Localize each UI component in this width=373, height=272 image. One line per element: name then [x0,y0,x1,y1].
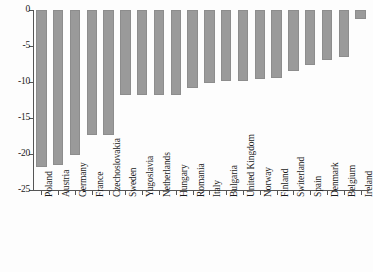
x-axis-tick [243,191,244,195]
x-axis-tick-label: Ireland [365,171,373,197]
bar [120,10,130,95]
x-axis-tick [260,191,261,195]
bar [171,10,181,95]
x-axis-tick-label: Bulgaria [230,165,240,197]
x-axis-tick [327,191,328,195]
x-axis-tick [361,191,362,195]
bar [87,10,97,135]
x-axis-tick [310,191,311,195]
bar [137,10,147,95]
x-axis-tick-label: France [96,172,106,197]
x-axis-tick [41,191,42,195]
x-axis-tick [193,191,194,195]
x-axis-tick [209,191,210,195]
bar [271,10,281,78]
x-axis-tick-label: Netherlands [163,152,173,197]
bar [204,10,214,83]
bar [154,10,164,95]
x-axis-tick-label: Germany [79,162,89,197]
bar [255,10,265,79]
bar [305,10,315,65]
x-axis-tick-label: Yugoslavia [146,156,156,197]
x-axis-tick [58,191,59,195]
x-axis-tick-label: United Kingdom [247,134,257,197]
bar [355,10,365,19]
x-axis-tick [142,191,143,195]
chart-screenshot: 0-5-10-15-20-25 PolandAustriaGermanyFran… [0,0,373,272]
x-axis-tick [277,191,278,195]
y-axis-tick-label: -5 [2,41,30,51]
y-axis-tick-label: -20 [2,149,30,159]
x-axis-tick [109,191,110,195]
x-axis-tick [293,191,294,195]
y-axis-tick-label: -15 [2,113,30,123]
bar [322,10,332,60]
bar [221,10,231,81]
x-axis-tick-label: Poland [45,171,55,197]
y-axis-tick-label: -10 [2,77,30,87]
y-axis-tick-label: 0 [2,5,30,15]
bar [288,10,298,71]
x-axis-tick-label: Sweden [129,168,139,197]
bar [339,10,349,57]
x-axis-tick-label: Austria [62,170,72,197]
bar [103,10,113,135]
x-axis-tick-label: Switerland [297,157,307,197]
x-axis-tick-label: Czechoslovakia [113,138,123,197]
bar [238,10,248,81]
x-axis-tick-label: Denmark [331,162,341,197]
x-axis-tick-label: Finland [281,169,291,197]
bar [70,10,80,155]
x-axis-tick [344,191,345,195]
x-axis-tick [226,191,227,195]
x-axis-tick-label: Italy [213,180,223,197]
x-axis-tick-label: Hungary [180,164,190,197]
x-axis-tick-label: Romania [197,163,207,197]
x-axis-tick [159,191,160,195]
x-axis-tick-label: Belgium [348,165,358,197]
x-axis-tick [75,191,76,195]
x-axis-tick [92,191,93,195]
x-axis-tick-label: Spain [314,176,324,197]
bar [36,10,46,167]
x-axis-tick-label: Norway [264,167,274,197]
bar [53,10,63,165]
x-axis-tick [125,191,126,195]
x-axis-tick [176,191,177,195]
y-axis-tick-label: -25 [2,185,30,195]
bar [187,10,197,88]
plot-area: 0-5-10-15-20-25 PolandAustriaGermanyFran… [33,10,369,190]
